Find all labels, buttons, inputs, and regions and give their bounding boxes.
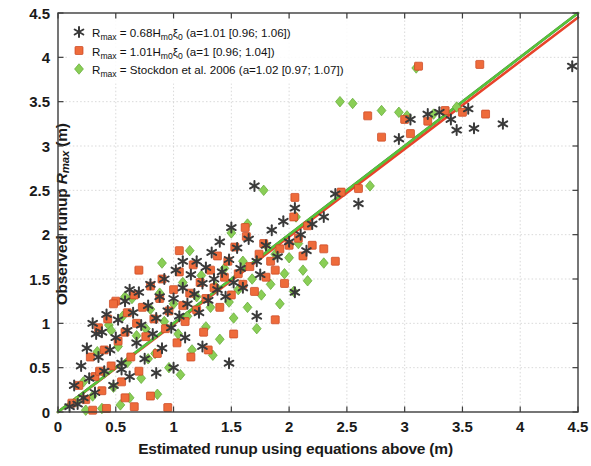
x-tick-label: 2 bbox=[285, 418, 293, 435]
series-asterisk bbox=[65, 61, 576, 411]
y-tick-label: 2.5 bbox=[29, 182, 50, 199]
x-tick-label: 0 bbox=[54, 418, 62, 435]
x-tick-label: 3.5 bbox=[452, 418, 473, 435]
y-tick-label: 4.5 bbox=[29, 5, 50, 22]
y-tick-label: 3.5 bbox=[29, 93, 50, 110]
legend-entry-square bbox=[75, 47, 83, 55]
x-tick-label: 2.5 bbox=[336, 418, 357, 435]
x-tick-label: 4 bbox=[516, 418, 525, 435]
y-tick-label: 1 bbox=[42, 315, 50, 332]
x-tick-label: 1 bbox=[169, 418, 177, 435]
y-tick-label: 3 bbox=[42, 138, 50, 155]
y-tick-label: 0.5 bbox=[29, 359, 50, 376]
plot-legend: Rmax = 0.68Hm0ξ0 (a=1.01 [0.96; 1.06])Rm… bbox=[68, 20, 378, 84]
x-tick-label: 3 bbox=[400, 418, 408, 435]
data-points bbox=[65, 60, 576, 415]
y-tick-label: 4 bbox=[42, 49, 51, 66]
y-tick-label: 1.5 bbox=[29, 271, 50, 288]
x-tick-label: 0.5 bbox=[105, 418, 126, 435]
scatter-plot-figure: 00.511.522.533.544.500.511.522.533.544.5… bbox=[0, 0, 591, 466]
x-tick-label: 4.5 bbox=[568, 418, 589, 435]
y-tick-label: 2 bbox=[42, 226, 50, 243]
x-tick-label: 1.5 bbox=[221, 418, 242, 435]
y-tick-label: 0 bbox=[42, 404, 50, 421]
